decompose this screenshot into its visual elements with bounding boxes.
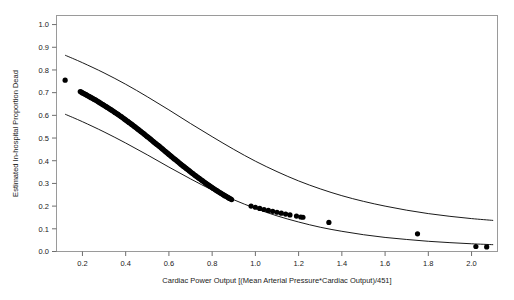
x-tick-label: 1.6 <box>380 259 390 268</box>
x-tick-label: 1.4 <box>337 259 347 268</box>
data-point <box>283 211 288 216</box>
x-axis-title: Cardiac Power Output [(Mean Arterial Pre… <box>162 276 391 285</box>
y-tick-label: 0.1 <box>39 225 49 234</box>
data-point <box>294 214 299 219</box>
confidence-band-line-2 <box>65 114 493 244</box>
data-point <box>270 209 275 214</box>
x-tick-label: 0.4 <box>120 259 130 268</box>
y-tick-label: 0.2 <box>39 202 49 211</box>
y-tick-label: 0.7 <box>39 88 49 97</box>
x-tick-label: 1.2 <box>293 259 303 268</box>
x-tick-label: 1.0 <box>250 259 260 268</box>
data-point <box>279 211 284 216</box>
y-tick-label: 0.0 <box>39 247 49 256</box>
scatter-plot: 0.20.40.60.81.01.21.41.61.82.00.00.10.20… <box>0 0 514 300</box>
y-tick-label: 0.8 <box>39 66 49 75</box>
data-point <box>473 244 478 249</box>
confidence-band-line-1 <box>65 55 493 220</box>
data-point <box>63 78 68 83</box>
y-axis-title: Estimated In-hospital Proportion Dead <box>11 70 20 197</box>
data-point-group <box>63 78 490 250</box>
data-point <box>326 220 331 225</box>
x-tick-label: 0.6 <box>164 259 174 268</box>
y-tick-label: 1.0 <box>39 20 49 29</box>
x-tick-label: 0.8 <box>207 259 217 268</box>
x-tick-label: 1.8 <box>423 259 433 268</box>
x-tick-label: 2.0 <box>466 259 476 268</box>
chart-root: 0.20.40.60.81.01.21.41.61.82.00.00.10.20… <box>0 0 514 300</box>
data-point <box>287 212 292 217</box>
y-tick-label: 0.4 <box>39 157 49 166</box>
data-point <box>274 210 279 215</box>
y-tick-label: 0.5 <box>39 134 49 143</box>
data-point <box>415 231 420 236</box>
data-point <box>484 244 489 249</box>
y-tick-label: 0.6 <box>39 111 49 120</box>
data-point <box>300 215 305 220</box>
x-tick-label: 0.2 <box>77 259 87 268</box>
y-tick-label: 0.9 <box>39 43 49 52</box>
y-tick-label: 0.3 <box>39 179 49 188</box>
